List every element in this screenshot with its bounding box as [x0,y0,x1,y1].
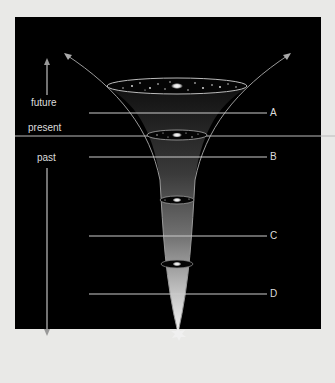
marker-label-d: D [270,288,277,300]
big-bang-star-icon [171,327,186,341]
left-arrowhead-icon [64,53,72,60]
up-arrowhead-icon [44,58,50,65]
marker-label-c: C [270,230,277,242]
galaxy-disk-small [160,196,194,204]
marker-label-a: A [270,107,277,119]
funnel-shape [108,88,247,333]
galaxy-disk-present [147,130,207,140]
present-label: present [28,122,61,134]
past-label: past [37,152,56,164]
expanding-universe-diagram [0,0,335,383]
galaxy-disk-smallest [161,260,193,268]
down-arrowhead-icon [44,329,50,336]
right-arrowhead-icon [283,53,291,60]
galaxy-disk-top [107,78,247,94]
future-label: future [31,97,57,109]
marker-label-b: B [270,151,277,163]
